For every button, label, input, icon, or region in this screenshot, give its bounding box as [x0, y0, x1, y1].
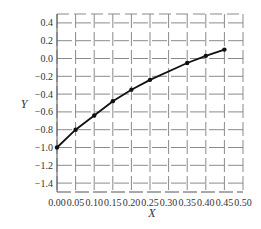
data-point-marker	[73, 128, 77, 132]
y-tick-label: −1.2	[35, 160, 53, 171]
data-point-marker	[55, 145, 59, 149]
data-point-marker	[148, 78, 152, 82]
y-tick-label: −0.8	[35, 124, 53, 135]
y-tick-label: 0.2	[41, 35, 54, 46]
y-axis-label: Y	[21, 97, 29, 111]
data-point-marker	[185, 61, 189, 65]
data-series	[55, 47, 227, 149]
y-tick-label: −0.6	[35, 106, 53, 117]
x-axis-label: X	[147, 206, 156, 220]
grid	[57, 14, 243, 192]
y-tick-label: 0.0	[41, 53, 54, 64]
series-line	[57, 50, 224, 148]
x-tick-label: 0.40	[197, 197, 215, 208]
data-point-marker	[111, 99, 115, 103]
data-point-marker	[222, 47, 226, 51]
y-tick-label: −1.4	[35, 178, 53, 189]
x-tick-label: 0.10	[85, 197, 103, 208]
x-tick-label: 0.15	[104, 197, 122, 208]
x-tick-label: 0.35	[178, 197, 196, 208]
y-tick-label: −0.2	[35, 71, 53, 82]
y-tick-labels: 0.40.20.0−0.2−0.4−0.6−0.8−1.0−1.2−1.4	[35, 17, 53, 188]
data-point-marker	[92, 113, 96, 117]
x-tick-label: 0.50	[234, 197, 252, 208]
y-tick-label: 0.4	[41, 17, 54, 28]
x-tick-label: 0.00	[48, 197, 66, 208]
x-tick-label: 0.30	[160, 197, 178, 208]
y-tick-label: −1.0	[35, 142, 53, 153]
y-tick-label: −0.4	[35, 89, 53, 100]
x-tick-label: 0.45	[216, 197, 234, 208]
data-point-marker	[129, 87, 133, 91]
x-tick-label: 0.20	[123, 197, 141, 208]
x-tick-label: 0.05	[67, 197, 85, 208]
line-chart: 0.40.20.0−0.2−0.4−0.6−0.8−1.0−1.2−1.4 0.…	[0, 0, 261, 229]
data-point-marker	[204, 54, 208, 58]
